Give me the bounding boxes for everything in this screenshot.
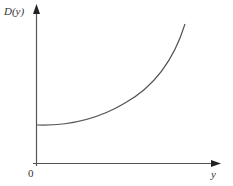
x-axis-arrow-icon <box>211 160 221 167</box>
curve-D-of-y <box>37 24 185 125</box>
y-axis-label: D(y) <box>3 5 24 18</box>
origin-label: 0 <box>28 167 34 179</box>
x-axis-label: y <box>210 168 216 180</box>
chart-canvas: D(y) y 0 <box>0 0 233 186</box>
y-axis-arrow-icon <box>33 4 40 14</box>
